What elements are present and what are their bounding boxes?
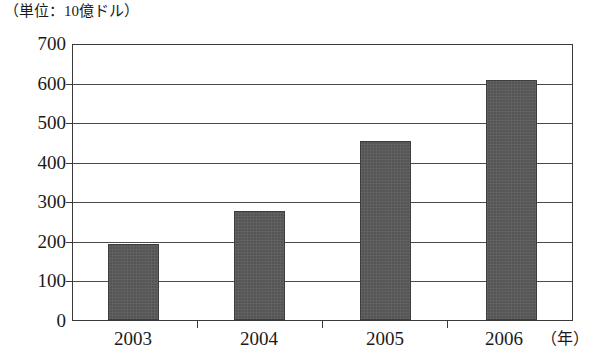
- y-axis-label-100: 100: [2, 271, 66, 290]
- x-axis-label-2005: 2005: [340, 327, 430, 351]
- y-axis-label-300: 300: [2, 192, 66, 211]
- x-axis-label-2006: 2006: [459, 327, 549, 351]
- bar-2005: [360, 141, 411, 320]
- y-axis-labels: 700 600 500 400 300 200 100 0: [0, 0, 66, 355]
- x-axis-label-2003: 2003: [88, 327, 178, 351]
- plot-area: [72, 44, 573, 321]
- y-axis-label-400: 400: [2, 153, 66, 172]
- y-axis-label-0: 0: [2, 311, 66, 330]
- x-axis-label-2004: 2004: [214, 327, 304, 351]
- bar-2003: [108, 244, 159, 320]
- bar-2006: [486, 80, 537, 320]
- x-axis-tick-2: [322, 321, 323, 328]
- y-axis-label-600: 600: [2, 74, 66, 93]
- y-axis-label-200: 200: [2, 232, 66, 251]
- x-axis-tick-3: [447, 321, 448, 328]
- y-axis-label-700: 700: [2, 34, 66, 53]
- x-axis-unit-label: （年）: [541, 327, 589, 351]
- y-axis-label-500: 500: [2, 113, 66, 132]
- bar-2004: [234, 211, 285, 320]
- x-axis-tick-1: [197, 321, 198, 328]
- bar-chart: （単位：10億ドル） 700 600 500 400 300 200 100 0…: [0, 0, 589, 355]
